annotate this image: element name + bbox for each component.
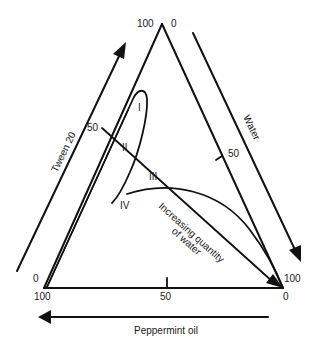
left-mid-label: 50: [87, 122, 99, 133]
bottom-right-upper-label: 100: [284, 273, 301, 284]
bottom-left-upper-label: 0: [33, 273, 39, 284]
water-axis-arrow: [193, 33, 301, 262]
bottom-right-lower-label: 0: [283, 291, 289, 302]
region-label-3: III: [149, 171, 157, 182]
oil-axis-label: Peppermint oil: [134, 325, 198, 336]
right-mid-label: 50: [228, 148, 240, 159]
ternary-diagram: 100 0 50 50 50 0 100 100 0 I II III IV T…: [0, 0, 317, 345]
region-label-4: IV: [120, 200, 130, 211]
region-label-1: I: [138, 102, 141, 113]
region-boundary-loop: [47, 91, 147, 287]
water-axis-label: Water: [241, 113, 263, 142]
bottom-left-lower-label: 100: [34, 291, 51, 302]
apex-right-label: 0: [171, 18, 177, 29]
tween-axis-arrow: [17, 42, 126, 271]
annotation-line-1: Increasing quantity: [157, 200, 227, 264]
region-label-2: II: [122, 142, 128, 153]
apex-left-label: 100: [137, 18, 154, 29]
triangle-frame: [44, 24, 283, 288]
oil-axis-arrow: [38, 310, 268, 324]
bottom-mid-label: 50: [160, 291, 172, 302]
